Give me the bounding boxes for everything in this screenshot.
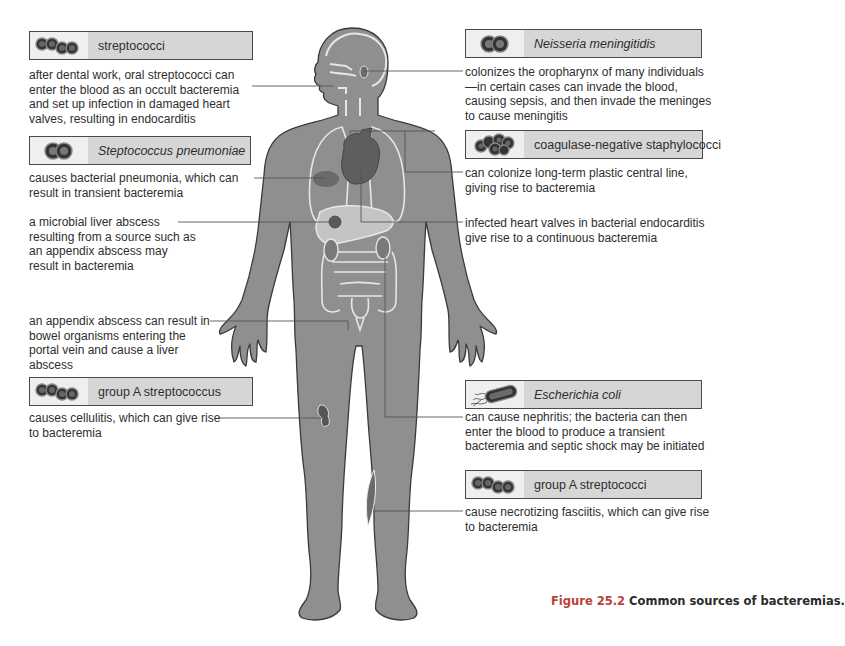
organism-box-e-coli: Escherichia coli: [465, 380, 702, 409]
description-oral-streptococci: after dental work, oral streptococci can…: [29, 68, 259, 126]
organism-label: Neisseria meningitidis: [524, 30, 701, 57]
organism-label: group A streptococcus: [88, 378, 252, 405]
organism-box-group-a-streptococcus: group A streptococcus: [29, 377, 253, 406]
staphylococci-cluster-icon: [466, 131, 524, 158]
organism-box-coagulase-negative-staphylococci: coagulase-negative staphylococci: [465, 130, 703, 159]
description-pneumonia: causes bacterial pneumonia, which can re…: [29, 171, 239, 200]
organism-box-n-meningitidis: Neisseria meningitidis: [465, 29, 702, 58]
pneumonia-lesion: [313, 171, 339, 187]
bacillus-flagella-icon: [466, 381, 524, 408]
figure-title: Common sources of bacteremias.: [625, 594, 845, 608]
right-kidney: [376, 237, 390, 259]
figure-caption: Figure 25.2 Common sources of bacteremia…: [551, 594, 845, 608]
streptococci-chain-icon: [30, 378, 88, 405]
description-meningitis: colonizes the oropharynx of many individ…: [465, 65, 715, 123]
organism-box-s-pneumoniae: Steptococcus pneumoniae: [29, 136, 251, 165]
description-necrotizing-fasciitis: cause necrotizing fasciitis, which can g…: [465, 505, 715, 534]
organism-label: group A streptococci: [524, 471, 701, 498]
figure-number: Figure 25.2: [551, 594, 625, 608]
description-liver-abscess: a microbial liver abscess resulting from…: [29, 215, 199, 273]
description-central-line: can colonize long-term plastic central l…: [465, 166, 705, 195]
diplococcus-icon: [30, 137, 88, 164]
streptococci-chain-icon: [466, 471, 524, 498]
organism-box-streptococci: streptococci: [29, 31, 253, 60]
organism-label: streptococci: [88, 32, 252, 59]
organism-box-group-a-streptococci: group A streptococci: [465, 470, 702, 499]
left-kidney: [324, 239, 338, 261]
diplococcus-icon: [466, 30, 524, 57]
description-cellulitis: causes cellulitis, which can give rise t…: [29, 411, 229, 440]
streptococci-chain-icon: [30, 32, 88, 59]
description-nephritis: can cause nephritis; the bacteria can th…: [465, 410, 715, 454]
description-appendix-abscess: an appendix abscess can result in bowel …: [29, 314, 219, 372]
organism-label: Steptococcus pneumoniae: [88, 137, 250, 164]
organism-label: Escherichia coli: [524, 381, 701, 408]
organism-label: coagulase-negative staphylococci: [524, 131, 721, 158]
description-endocarditis: infected heart valves in bacterial endoc…: [465, 216, 715, 245]
